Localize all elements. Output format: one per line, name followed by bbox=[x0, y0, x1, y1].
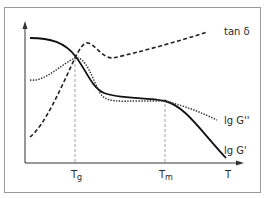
x-axis-arrow-icon bbox=[236, 161, 244, 166]
frame bbox=[5, 8, 261, 193]
label-lg-g-prime: lg G' bbox=[224, 145, 247, 156]
label-x-axis: T bbox=[224, 169, 232, 180]
label-lg-g-double-prime: lg G'' bbox=[224, 115, 250, 126]
polymer-modulus-diagram: tan δ lg G'' lg G' T Tg Tm bbox=[0, 0, 266, 198]
label-tm: Tm bbox=[158, 169, 173, 182]
series-lg-g-double-prime bbox=[30, 58, 217, 120]
label-tg: Tg bbox=[70, 169, 82, 182]
series-lg-g-prime bbox=[30, 38, 226, 158]
y-axis-arrow-icon bbox=[23, 21, 28, 29]
series-tan-delta bbox=[30, 32, 207, 137]
label-tan-delta: tan δ bbox=[224, 26, 250, 37]
